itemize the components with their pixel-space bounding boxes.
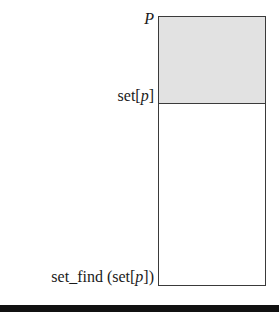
label-set-p: set[p] bbox=[118, 87, 154, 105]
label-p: P bbox=[144, 10, 154, 28]
label-set-find-prefix: set_find (set[ bbox=[51, 268, 135, 285]
label-set-find: set_find (set[p]) bbox=[51, 268, 154, 286]
label-set-p-prefix: set[ bbox=[118, 87, 141, 104]
label-set-p-suffix: ] bbox=[149, 87, 154, 104]
bottom-rule bbox=[0, 305, 279, 312]
label-set-p-var: p bbox=[141, 87, 149, 104]
shaded-region bbox=[159, 17, 265, 104]
label-set-find-suffix: ]) bbox=[143, 268, 154, 285]
memory-block bbox=[158, 16, 266, 286]
